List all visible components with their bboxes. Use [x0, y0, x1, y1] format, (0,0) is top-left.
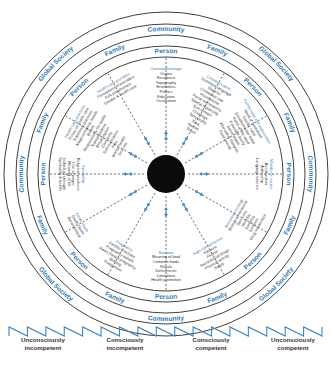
ring-label-outer: Global Society: [37, 44, 76, 82]
purnell-wheel: Global SocietyGlobal SocietyGlobal Socie…: [0, 0, 331, 371]
bidirectional-arrow-icon: [123, 172, 133, 176]
section-3: Workforce issuesAcculturationAutonomyLan…: [255, 158, 274, 190]
ring-label-person: Person: [154, 47, 177, 55]
center-core: [147, 155, 185, 193]
ring-label-community: Community: [17, 155, 26, 193]
ring-label-family: Family: [36, 214, 50, 236]
bidirectional-arrow-icon: [194, 151, 205, 159]
ring-label-person: Person: [68, 76, 89, 97]
bidirectional-arrow-icon: [164, 207, 168, 217]
stage-line2: competent: [252, 344, 331, 352]
bidirectional-arrow-icon: [164, 131, 168, 141]
bidirectional-arrow-icon: [181, 202, 189, 213]
section-6: NutritionMeaning of foodCommon foodsRitu…: [151, 250, 181, 283]
section-item: Health promotion: [151, 277, 181, 282]
stage-consciously-competent: Consciously competent: [170, 336, 252, 352]
ring-label-community: Community: [306, 155, 315, 193]
bidirectional-arrow-icon: [128, 151, 139, 159]
zigzag-line: [9, 327, 322, 336]
stage-line2: incompetent: [2, 344, 84, 352]
ring-label-person: Person: [285, 162, 293, 185]
stage-line1: Unconsciously: [252, 336, 331, 344]
section-0: Overview/heritageOriginsResidenceTopogra…: [150, 66, 181, 103]
stage-line2: competent: [170, 344, 252, 352]
stage-unconsciously-competent: Unconsciously competent: [252, 336, 331, 352]
section-11: Health-care providersPerceptions of prov…: [94, 70, 140, 107]
stage-consciously-incompetent: Consciously incompetent: [84, 336, 166, 352]
stage-line2: incompetent: [84, 344, 166, 352]
stage-line1: Consciously: [84, 336, 166, 344]
ring-label-outer: Global Society: [257, 265, 295, 302]
ring-label-person: Person: [155, 293, 178, 300]
bidirectional-arrow-icon: [128, 189, 139, 197]
ring-label-person: Person: [39, 162, 47, 185]
section-item: Language barriers: [255, 158, 260, 190]
section-8: Death ritualsDeath ritualsBereavement: [66, 211, 90, 239]
stage-line1: Unconsciously: [2, 336, 84, 344]
section-5: High-risk behaviorsTobaccoAlcoholRecreat…: [192, 235, 235, 276]
ring-label-person: Person: [243, 76, 264, 97]
section-10: Health-care practicesFocus on health car…: [62, 102, 135, 168]
section-item: Occupation: [156, 98, 176, 103]
bidirectional-arrow-icon: [199, 172, 209, 176]
bidirectional-arrow-icon: [181, 136, 189, 147]
bidirectional-arrow-icon: [143, 136, 151, 147]
bidirectional-arrow-icon: [194, 189, 205, 197]
ring-label-outer: Global Society: [258, 45, 296, 84]
stage-line1: Consciously: [170, 336, 252, 344]
ring-label-outer: Global Society: [38, 265, 75, 303]
ring-label-community: Community: [148, 314, 185, 322]
section-item: Spirituality & health: [58, 157, 63, 190]
section-9: SpiritualityReligious practicesUse of pr…: [58, 157, 86, 190]
stage-unconsciously-incompetent: Unconsciously incompetent: [2, 336, 84, 352]
ring-label-community: Community: [147, 25, 185, 34]
ring-label-family: Family: [206, 290, 228, 304]
section-4: Biocultural ecologyBiological variations…: [223, 197, 268, 243]
bidirectional-arrow-icon: [143, 202, 151, 213]
